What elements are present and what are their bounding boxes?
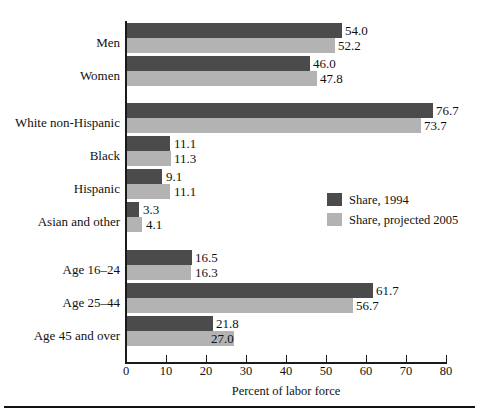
category-label-hispanic: Hispanic [0, 181, 120, 196]
bar-women-1994 [126, 56, 310, 71]
bar-women-2005 [126, 71, 317, 86]
bar-value-age-25-44-2005: 56.7 [356, 298, 379, 313]
x-tick-label-60: 60 [351, 364, 381, 379]
bar-value-age-45-and-over-2005: 27.0 [211, 331, 234, 346]
x-tick-50 [326, 355, 327, 363]
bar-chart: Men Women White non-Hispanic Black Hispa… [0, 0, 479, 419]
bar-black-1994 [126, 136, 170, 151]
category-label-black: Black [0, 148, 120, 163]
bar-value-age-16-24-2005: 16.3 [195, 265, 218, 280]
y-axis-line [125, 21, 127, 363]
bar-value-men-2005: 52.2 [338, 38, 361, 53]
x-tick-0 [126, 355, 127, 363]
bar-value-asian-and-other-2005: 4.1 [146, 217, 162, 232]
bar-value-age-25-44-1994: 61.7 [376, 283, 399, 298]
legend-item-share-projected-2005: Share, projected 2005 [327, 211, 458, 228]
bar-value-hispanic-2005: 11.1 [174, 184, 196, 199]
bar-value-white-non-hispanic-1994: 76.7 [436, 103, 459, 118]
bar-white-non-hispanic-2005 [126, 118, 421, 133]
bar-value-asian-and-other-1994: 3.3 [143, 202, 159, 217]
bar-value-black-1994: 11.1 [174, 136, 196, 151]
top-clipped-text [0, 0, 479, 9]
x-tick-label-30: 30 [231, 364, 261, 379]
bar-men-1994 [126, 23, 342, 38]
bar-age-25-44-1994 [126, 283, 373, 298]
legend-label-2005: Share, projected 2005 [349, 213, 458, 227]
x-tick-70 [406, 355, 407, 363]
chart-legend: Share, 1994 Share, projected 2005 [327, 191, 458, 231]
bar-age-16-24-1994 [126, 250, 192, 265]
bar-men-2005 [126, 38, 335, 53]
x-tick-40 [286, 355, 287, 363]
x-tick-30 [246, 355, 247, 363]
bar-age-16-24-2005 [126, 265, 191, 280]
bar-black-2005 [126, 151, 171, 166]
category-label-white-non-hispanic: White non-Hispanic [0, 115, 120, 130]
bar-value-age-45-and-over-1994: 21.8 [216, 316, 239, 331]
x-tick-label-10: 10 [151, 364, 181, 379]
bar-value-women-2005: 47.8 [320, 71, 343, 86]
x-tick-label-70: 70 [391, 364, 421, 379]
legend-swatch-icon-2005 [327, 213, 342, 226]
bar-value-black-2005: 11.3 [174, 151, 196, 166]
x-axis-title: Percent of labor force [125, 384, 447, 399]
category-label-asian-and-other: Asian and other [0, 214, 120, 229]
x-tick-label-40: 40 [271, 364, 301, 379]
bar-age-45-and-over-1994 [126, 316, 213, 331]
x-tick-60 [366, 355, 367, 363]
x-tick-20 [206, 355, 207, 363]
category-label-men: Men [0, 35, 120, 50]
category-label-age-45-and-over: Age 45 and over [0, 328, 120, 343]
legend-swatch-icon-1994 [327, 193, 342, 206]
x-tick-80 [446, 355, 447, 363]
bar-value-women-1994: 46.0 [313, 56, 336, 71]
category-label-age-25-44: Age 25–44 [0, 295, 120, 310]
x-tick-label-50: 50 [311, 364, 341, 379]
legend-item-share-1994: Share, 1994 [327, 191, 458, 208]
x-tick-label-20: 20 [191, 364, 221, 379]
x-tick-label-0: 0 [111, 364, 141, 379]
x-tick-10 [166, 355, 167, 363]
category-label-women: Women [0, 68, 120, 83]
bar-hispanic-1994 [126, 169, 162, 184]
category-label-age-16-24: Age 16–24 [0, 262, 120, 277]
bar-white-non-hispanic-1994 [126, 103, 433, 118]
bar-age-25-44-2005 [126, 298, 353, 313]
bar-asian-and-other-1994 [126, 202, 139, 217]
legend-label-1994: Share, 1994 [349, 193, 409, 207]
bar-value-men-1994: 54.0 [345, 23, 368, 38]
bottom-divider-rule [4, 406, 475, 408]
x-tick-label-80: 80 [431, 364, 461, 379]
bar-value-age-16-24-1994: 16.5 [195, 250, 218, 265]
bar-value-white-non-hispanic-2005: 73.7 [424, 118, 447, 133]
bar-asian-and-other-2005 [126, 217, 142, 232]
bar-value-hispanic-1994: 9.1 [166, 169, 182, 184]
bar-hispanic-2005 [126, 184, 170, 199]
